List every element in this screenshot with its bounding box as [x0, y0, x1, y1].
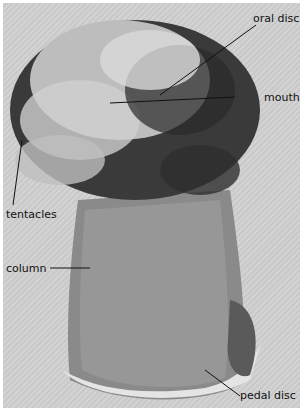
- label-pedal-disc: pedal disc: [240, 389, 296, 402]
- label-tentacles: tentacles: [6, 208, 57, 221]
- anemone-photo: [0, 0, 303, 411]
- label-column: column: [6, 262, 47, 275]
- label-mouth: mouth: [264, 91, 300, 104]
- anemone-figure: oral disc mouth tentacles column pedal d…: [0, 0, 303, 411]
- label-oral-disc: oral disc: [253, 12, 299, 25]
